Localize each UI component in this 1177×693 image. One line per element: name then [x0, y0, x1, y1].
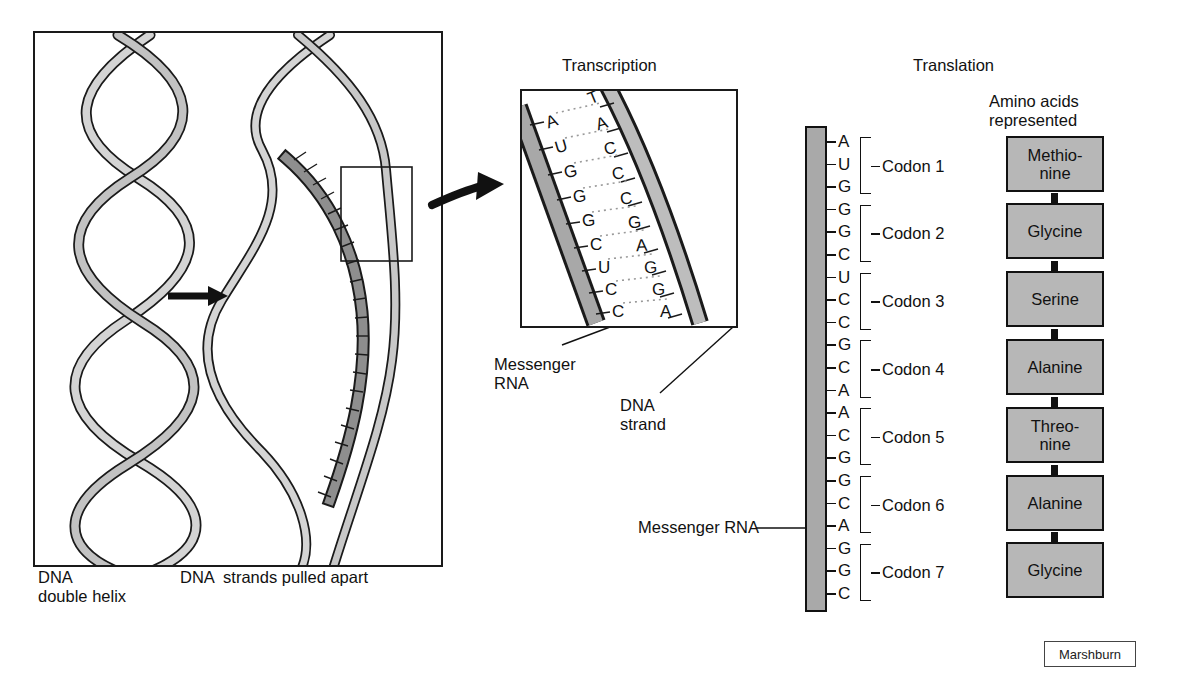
transcription-title: Transcription: [562, 56, 657, 75]
mrna-base-tick: [827, 390, 836, 392]
codon-label: Codon 2: [882, 225, 944, 242]
mrna-base-tick: [827, 277, 836, 279]
transcription-dna-base: G: [652, 281, 665, 298]
codon-label: Codon 6: [882, 497, 944, 514]
mrna-base-tick: [827, 412, 836, 414]
mrna-base: G: [838, 178, 851, 195]
mrna-base: A: [838, 133, 849, 150]
mrna-base-tick: [827, 186, 836, 188]
amino-acid-box: Serine: [1006, 271, 1104, 327]
mrna-base: U: [838, 156, 850, 173]
mrna-base-tick: [827, 593, 836, 595]
codon-label: Codon 5: [882, 429, 944, 446]
transcription-mrna-base: C: [612, 303, 624, 320]
amino-acids-heading: Amino acidsrepresented: [989, 92, 1079, 130]
amino-acid-box: Glycine: [1006, 203, 1104, 259]
mrna-base: G: [838, 540, 851, 557]
mrna-base: C: [838, 495, 850, 512]
mrna-base: A: [838, 517, 849, 534]
amino-acid-box: Alanine: [1006, 475, 1104, 531]
mrna-base-tick: [827, 254, 836, 256]
mrna-base-tick: [827, 141, 836, 143]
codon-label: Codon 1: [882, 158, 944, 175]
mrna-base-tick: [827, 480, 836, 482]
codon-bracket-stem: [871, 437, 880, 439]
mrna-base-tick: [827, 435, 836, 437]
transcription-detail-box: A U G G G C U C C T A C C C G A G G A: [520, 89, 738, 328]
mrna-base: C: [838, 427, 850, 444]
codon-bracket-stem: [871, 505, 880, 507]
translation-mrna-strip: [805, 126, 827, 612]
transcription-dna-base: A: [660, 303, 671, 320]
codon-label: Codon 3: [882, 293, 944, 310]
transcription-dna-base: G: [627, 213, 642, 231]
mrna-base-tick: [827, 209, 836, 211]
mrna-base-tick: [827, 344, 836, 346]
transcription-mrna-base: C: [590, 236, 603, 254]
mrna-base-tick: [827, 570, 836, 572]
mrna-base-tick: [827, 367, 836, 369]
translation-mrna-label: Messenger RNA: [638, 518, 759, 537]
dna-strands-separated-label: DNA strands pulled apart: [180, 568, 368, 587]
transcription-dna-base: C: [619, 189, 633, 207]
codon-bracket: [860, 544, 871, 601]
transcription-dna-base: G: [644, 259, 658, 276]
transcription-messenger-rna-label: MessengerRNA: [494, 355, 576, 393]
mrna-base: U: [838, 269, 850, 286]
figure-canvas: DNAdouble helix DNA strands pulled apart…: [0, 0, 1177, 693]
amino-acid-box: Alanine: [1006, 339, 1104, 395]
codon-bracket: [860, 476, 871, 533]
mrna-base-tick: [827, 164, 836, 166]
codon-bracket-stem: [871, 233, 880, 235]
codon-bracket: [860, 273, 871, 330]
mrna-base: C: [838, 246, 850, 263]
mrna-base: G: [838, 223, 851, 240]
codon-bracket: [860, 340, 871, 397]
mrna-base-tick: [827, 503, 836, 505]
transcription-dna-strand-label: DNAstrand: [620, 396, 666, 434]
dna-double-helix-label: DNAdouble helix: [38, 568, 126, 606]
codon-bracket: [860, 205, 871, 262]
attribution-box: Marshburn: [1044, 641, 1136, 667]
amino-acid-box: Threo-nine: [1006, 407, 1104, 463]
codon-label: Codon 7: [882, 564, 944, 581]
dna-strand-leader-line: [660, 327, 733, 393]
codon-bracket-stem: [871, 166, 880, 168]
codon-bracket-stem: [871, 369, 880, 371]
mrna-base: C: [838, 314, 850, 331]
mrna-base-tick: [827, 525, 836, 527]
transcription-mrna-base: U: [598, 259, 610, 276]
mrna-base: G: [838, 201, 851, 218]
dna-panel-frame: [33, 31, 443, 567]
codon-bracket-stem: [871, 301, 880, 303]
mrna-base-tick: [827, 548, 836, 550]
mrna-base: C: [838, 291, 850, 308]
mrna-base-tick: [827, 457, 836, 459]
transcription-mrna-base: C: [605, 281, 617, 298]
codon-bracket: [860, 137, 871, 194]
mrna-base: G: [838, 472, 851, 489]
transcription-mrna-base: G: [581, 211, 596, 229]
mrna-base: G: [838, 562, 851, 579]
translation-title: Translation: [913, 56, 994, 75]
mrna-base: C: [838, 359, 850, 376]
codon-label: Codon 4: [882, 361, 944, 378]
mrna-base: G: [838, 449, 851, 466]
amino-acid-box: Methio-nine: [1006, 136, 1104, 192]
transcription-dna-base: A: [636, 237, 648, 255]
mrna-base: A: [838, 382, 849, 399]
mrna-base: C: [838, 585, 850, 602]
codon-bracket-stem: [871, 572, 880, 574]
mrna-base-tick: [827, 299, 836, 301]
amino-acid-box: Glycine: [1006, 542, 1104, 598]
mrna-base: A: [838, 404, 849, 421]
mrna-base-tick: [827, 231, 836, 233]
mrna-base-tick: [827, 322, 836, 324]
mrna-base: G: [838, 336, 851, 353]
messenger-rna-leader-line: [562, 327, 610, 345]
transcription-mrna-base: G: [572, 187, 587, 206]
codon-bracket: [860, 408, 871, 465]
